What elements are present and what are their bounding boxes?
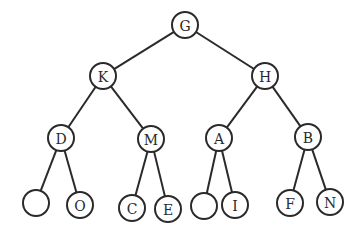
tree-node-f: F <box>277 190 303 216</box>
node-label: H <box>259 69 271 85</box>
tree-node-m: M <box>138 126 164 152</box>
tree-edge <box>111 86 143 128</box>
node-label: A <box>213 131 225 147</box>
node-circle <box>23 190 49 216</box>
node-label: E <box>163 202 173 218</box>
tree-edges <box>41 32 326 197</box>
tree-edge <box>312 149 326 189</box>
tree-node-empty <box>23 190 49 216</box>
node-label: N <box>324 195 336 211</box>
tree-node-n: N <box>317 189 343 215</box>
tree-node-d: D <box>48 125 74 151</box>
node-label: O <box>74 198 85 214</box>
tree-edge <box>293 150 304 191</box>
node-label: G <box>179 18 190 34</box>
tree-node-c: C <box>119 195 145 221</box>
binary-tree-diagram: GKHDMABOCEIFN <box>0 0 361 236</box>
tree-edge <box>135 152 147 196</box>
tree-edge <box>114 32 174 69</box>
tree-edge <box>227 86 258 127</box>
node-label: K <box>98 69 109 85</box>
tree-node-h: H <box>252 63 278 89</box>
tree-node-a: A <box>206 125 232 151</box>
tree-edge <box>196 32 254 69</box>
tree-node-e: E <box>155 196 181 222</box>
tree-node-g: G <box>172 12 198 38</box>
tree-edge <box>272 87 300 127</box>
tree-node-empty <box>191 193 217 219</box>
node-label: D <box>55 131 66 147</box>
tree-edge <box>68 87 95 127</box>
node-label: M <box>144 132 158 148</box>
node-label: F <box>285 196 295 212</box>
tree-node-b: B <box>295 124 321 150</box>
tree-node-i: I <box>222 192 248 218</box>
tree-edge <box>207 151 216 194</box>
node-circle <box>191 193 217 219</box>
tree-edge <box>41 150 57 191</box>
node-label: I <box>232 198 238 214</box>
tree-node-k: K <box>90 63 116 89</box>
tree-node-o: O <box>67 192 93 218</box>
tree-svg: GKHDMABOCEIFN <box>0 0 361 236</box>
node-label: B <box>303 130 313 146</box>
tree-edge <box>154 152 165 197</box>
tree-edge <box>222 151 232 193</box>
tree-edge <box>65 151 77 193</box>
node-label: C <box>127 201 138 217</box>
